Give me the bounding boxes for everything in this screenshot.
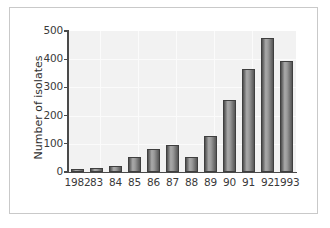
y-tick-mark bbox=[64, 143, 67, 144]
y-tick-mark bbox=[64, 171, 67, 172]
bar bbox=[166, 145, 179, 172]
x-axis-line bbox=[67, 172, 297, 174]
bar bbox=[185, 157, 198, 172]
bar bbox=[204, 136, 217, 172]
x-axis-ticks: 1982838485868788899091921993 bbox=[68, 176, 296, 192]
y-tick-mark bbox=[64, 30, 67, 31]
bar bbox=[128, 157, 141, 173]
y-tick-mark bbox=[64, 87, 67, 88]
bar bbox=[147, 149, 160, 172]
y-tick-mark bbox=[64, 115, 67, 116]
bar bbox=[242, 69, 255, 172]
bar-series bbox=[68, 31, 296, 172]
y-axis-title-anchor: Number of isolates bbox=[18, 0, 19, 228]
figure-canvas: 0100200300400500 Number of isolates 1982… bbox=[0, 0, 330, 228]
bar bbox=[261, 38, 274, 173]
y-tick-label: 500 bbox=[27, 24, 63, 36]
y-axis-line bbox=[67, 30, 69, 173]
y-axis-title: Number of isolates bbox=[32, 43, 45, 173]
x-tick-label: 1993 bbox=[273, 176, 301, 188]
y-tick-mark bbox=[64, 59, 67, 60]
bar bbox=[223, 100, 236, 172]
bar bbox=[280, 61, 293, 172]
